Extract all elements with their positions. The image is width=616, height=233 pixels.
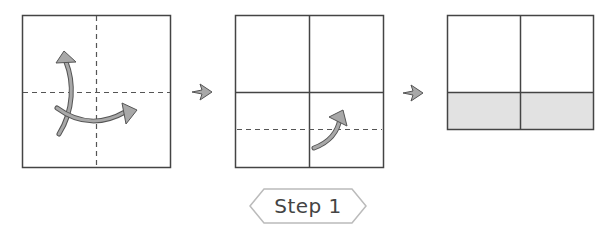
panel-3 (448, 16, 594, 130)
next-step-arrow-icon (192, 84, 212, 100)
step-badge: Step 1 (250, 186, 366, 226)
panel-2 (236, 16, 384, 168)
next-step-arrow-icon (403, 85, 423, 101)
step-label-text: Step 1 (250, 186, 366, 226)
panel-1 (23, 16, 171, 168)
